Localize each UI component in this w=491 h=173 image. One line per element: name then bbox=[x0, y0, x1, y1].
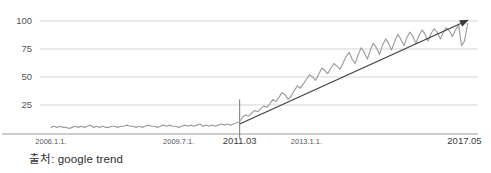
trend-arrow-shaft bbox=[240, 24, 461, 124]
x-tick-label-2006: 2006.1.1. bbox=[35, 137, 66, 146]
y-tick-label-50: 50 bbox=[21, 71, 32, 82]
x-tick-label-2013: 2013.1.1. bbox=[291, 137, 322, 146]
trend-line-chart: 100 75 50 25 2006.1.1. 2009.7.1. 2011.03… bbox=[0, 0, 491, 150]
x-tick-label-2011: 2011.03 bbox=[223, 135, 257, 146]
y-gridlines bbox=[40, 21, 478, 105]
google-trend-figure: 100 75 50 25 2006.1.1. 2009.7.1. 2011.03… bbox=[0, 0, 491, 173]
y-tick-label-25: 25 bbox=[21, 99, 32, 110]
x-tick-labels: 2006.1.1. 2009.7.1. 2011.03 2013.1.1. 20… bbox=[35, 135, 481, 146]
y-tick-labels: 100 75 50 25 bbox=[16, 15, 32, 110]
x-tick-label-2017: 2017.05 bbox=[447, 135, 481, 146]
y-tick-label-100: 100 bbox=[16, 15, 32, 26]
y-tick-label-75: 75 bbox=[21, 43, 32, 54]
x-tick-label-2009: 2009.7.1. bbox=[163, 137, 194, 146]
source-caption: 출처: google trend bbox=[29, 150, 123, 166]
data-series-line bbox=[51, 23, 468, 128]
